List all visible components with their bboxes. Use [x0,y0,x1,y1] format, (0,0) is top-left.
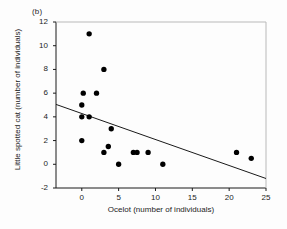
x-tick-label: 5 [107,193,131,202]
y-tick-label: 10 [26,41,48,50]
data-point [116,162,121,167]
data-point [134,150,139,155]
y-tick-label: 0 [26,159,48,168]
y-tick-label: 8 [26,64,48,73]
data-point [101,150,106,155]
data-point [106,144,111,149]
data-point [79,138,84,143]
x-tick-label: 20 [217,193,241,202]
data-points [79,31,254,167]
data-point [160,162,165,167]
data-point [109,126,114,131]
y-tick-label: 6 [26,88,48,97]
figure-panel: (b) Little spotted cat (number of indivi… [0,0,287,229]
data-point [249,156,254,161]
data-point [81,90,86,95]
data-point [101,67,106,72]
x-tick-label: 15 [180,193,204,202]
data-point [86,31,91,36]
y-tick-label: 12 [26,17,48,26]
y-tick-label: 4 [26,112,48,121]
y-tick-label: 2 [26,136,48,145]
x-tick-label: 10 [143,193,167,202]
data-point [234,150,239,155]
y-tick-label: -2 [26,183,48,192]
data-point [86,114,91,119]
data-point [79,114,84,119]
data-point [94,90,99,95]
x-tick-label: 25 [254,193,278,202]
data-point [145,150,150,155]
data-point [79,102,84,107]
tick-marks [53,22,266,191]
x-tick-label: 0 [70,193,94,202]
